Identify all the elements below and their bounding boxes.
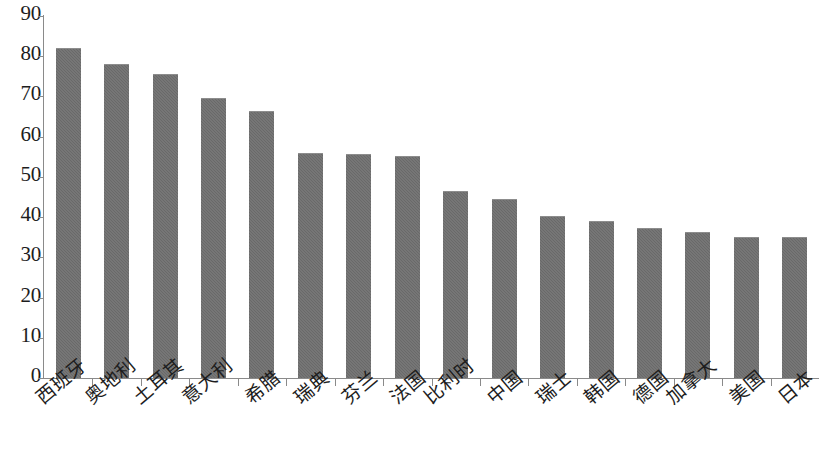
plot-area: [44, 16, 819, 378]
x-tick-mark: [577, 379, 578, 386]
y-tick-label: 40: [20, 204, 41, 225]
x-tick-mark: [383, 379, 384, 386]
bar: [346, 154, 371, 378]
bar: [782, 237, 807, 378]
y-tick-label: 20: [20, 285, 41, 306]
bar: [443, 191, 468, 378]
x-tick-mark: [480, 379, 481, 386]
x-tick-mark: [238, 379, 239, 386]
bar: [395, 156, 420, 378]
y-tick-label: 90: [20, 3, 41, 24]
bar: [589, 221, 614, 378]
y-tick-label: 0: [31, 365, 41, 386]
y-tick-label: 70: [20, 83, 41, 104]
bar-chart: 0102030405060708090 西班牙奥地利土耳其意大利希腊瑞典芬兰法国…: [0, 0, 819, 451]
y-tick-label: 10: [20, 325, 41, 346]
bar: [201, 98, 226, 378]
x-tick-mark: [771, 379, 772, 386]
y-tick-label: 60: [20, 124, 41, 145]
x-tick-mark: [286, 379, 287, 386]
y-tick-label: 80: [20, 43, 41, 64]
bar: [298, 153, 323, 378]
x-tick-mark: [528, 379, 529, 386]
x-tick-mark: [625, 379, 626, 386]
bar: [249, 111, 274, 378]
bar: [104, 64, 129, 378]
y-tick-label: 50: [20, 164, 41, 185]
bar: [153, 74, 178, 378]
bar: [734, 237, 759, 378]
bar: [56, 48, 81, 378]
x-tick-mark: [335, 379, 336, 386]
bar: [637, 228, 662, 378]
y-tick-mark: [38, 378, 44, 379]
y-tick-label: 30: [20, 244, 41, 265]
bar: [540, 216, 565, 378]
bar: [492, 199, 517, 378]
x-tick-mark: [722, 379, 723, 386]
